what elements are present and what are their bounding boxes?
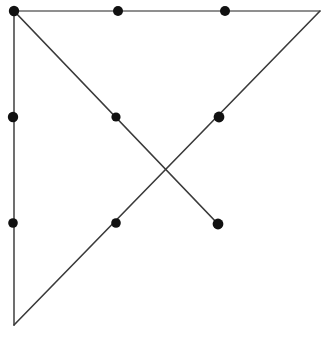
point-hypotenuse-point-upper bbox=[214, 112, 225, 123]
point-top-edge-point-2 bbox=[220, 6, 230, 16]
line-figure-svg bbox=[0, 0, 325, 337]
point-descending-diagonal-endpoint bbox=[213, 219, 224, 230]
figure-background bbox=[0, 0, 325, 337]
point-hypotenuse-point-lower bbox=[111, 218, 121, 228]
figure-canvas bbox=[0, 0, 325, 337]
point-descending-diagonal-point-1 bbox=[111, 112, 120, 121]
point-left-edge-point-1 bbox=[8, 112, 18, 122]
point-corner-top-left bbox=[9, 6, 19, 16]
point-left-edge-point-2 bbox=[8, 218, 18, 228]
point-top-edge-point-1 bbox=[113, 6, 123, 16]
